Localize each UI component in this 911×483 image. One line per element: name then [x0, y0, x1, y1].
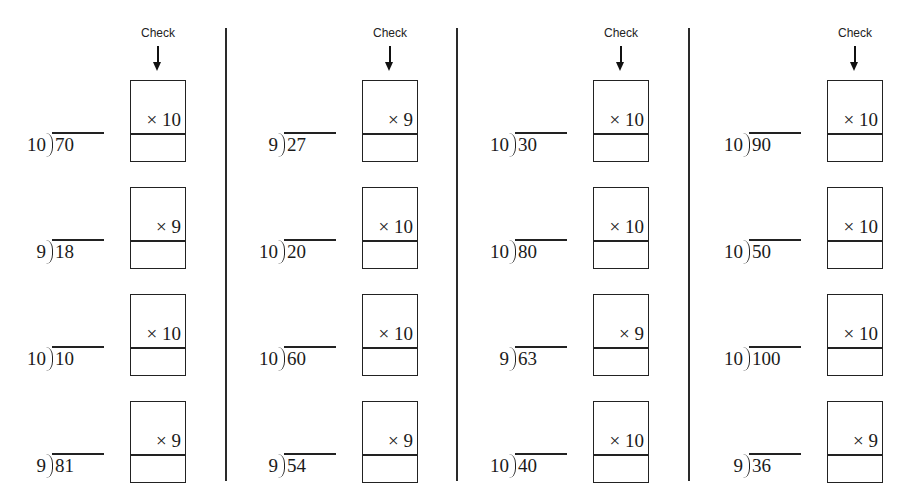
- division-bracket: [46, 454, 53, 478]
- answer-field[interactable]: [828, 349, 882, 375]
- answer-field[interactable]: [594, 242, 648, 268]
- check-box: × 9: [362, 401, 418, 483]
- down-arrow-icon: [616, 46, 626, 72]
- dividend: 63: [518, 348, 537, 370]
- division-bracket: [509, 240, 516, 264]
- multiplier-label: × 10: [610, 109, 644, 131]
- multiplier-label: × 9: [156, 430, 181, 452]
- multiplier-label: × 10: [147, 323, 181, 345]
- down-arrow-icon: [153, 46, 163, 72]
- dividend: 80: [518, 241, 537, 263]
- dividend: 70: [55, 134, 74, 156]
- divisor: 9: [238, 134, 278, 156]
- answer-field[interactable]: [363, 242, 417, 268]
- answer-field[interactable]: [363, 349, 417, 375]
- divisor: 10: [238, 348, 278, 370]
- multiplier-label: × 10: [379, 323, 413, 345]
- check-box: × 10: [827, 187, 883, 269]
- dividend: 60: [287, 348, 306, 370]
- multiplier-label: × 9: [388, 430, 413, 452]
- divisor: 9: [469, 348, 509, 370]
- long-division-problem: 10100: [697, 346, 807, 376]
- long-division-problem: 1080: [463, 239, 573, 269]
- divisor: 10: [469, 134, 509, 156]
- column-divider-line: [456, 28, 458, 481]
- divisor: 10: [6, 348, 46, 370]
- check-box: × 10: [130, 80, 186, 162]
- dividend: 81: [55, 455, 74, 477]
- division-bracket: [46, 133, 53, 157]
- answer-field[interactable]: [363, 456, 417, 482]
- long-division-problem: 954: [232, 453, 342, 483]
- division-bracket: [278, 240, 285, 264]
- dividend: 27: [287, 134, 306, 156]
- division-bracket: [46, 347, 53, 371]
- answer-field[interactable]: [131, 349, 185, 375]
- divisor: 10: [469, 455, 509, 477]
- answer-field[interactable]: [131, 135, 185, 161]
- answer-field[interactable]: [131, 456, 185, 482]
- check-label: Check: [825, 26, 885, 40]
- division-bracket: [509, 347, 516, 371]
- division-bracket: [278, 347, 285, 371]
- check-box: × 9: [130, 401, 186, 483]
- long-division-problem: 918: [0, 239, 110, 269]
- down-arrow-icon: [850, 46, 860, 72]
- answer-field[interactable]: [828, 456, 882, 482]
- long-division-problem: 981: [0, 453, 110, 483]
- divisor: 9: [6, 455, 46, 477]
- long-division-problem: 1030: [463, 132, 573, 162]
- dividend: 40: [518, 455, 537, 477]
- answer-field[interactable]: [363, 135, 417, 161]
- divisor: 10: [6, 134, 46, 156]
- answer-field[interactable]: [594, 456, 648, 482]
- check-box: × 10: [593, 80, 649, 162]
- multiplier-label: × 10: [844, 216, 878, 238]
- divisor: 9: [6, 241, 46, 263]
- check-box: × 9: [827, 401, 883, 483]
- answer-field[interactable]: [594, 349, 648, 375]
- multiplier-label: × 10: [610, 216, 644, 238]
- multiplier-label: × 10: [610, 430, 644, 452]
- long-division-problem: 1010: [0, 346, 110, 376]
- long-division-problem: 1070: [0, 132, 110, 162]
- division-bracket: [278, 454, 285, 478]
- dividend: 100: [752, 348, 781, 370]
- check-label: Check: [591, 26, 651, 40]
- divisor: 10: [469, 241, 509, 263]
- long-division-problem: 963: [463, 346, 573, 376]
- multiplier-label: × 10: [844, 109, 878, 131]
- multiplier-label: × 9: [156, 216, 181, 238]
- multiplier-label: × 9: [388, 109, 413, 131]
- answer-field[interactable]: [131, 242, 185, 268]
- column-divider-line: [225, 28, 227, 481]
- check-box: × 9: [593, 294, 649, 376]
- multiplier-label: × 10: [379, 216, 413, 238]
- answer-field[interactable]: [828, 242, 882, 268]
- answer-field[interactable]: [828, 135, 882, 161]
- division-bracket: [278, 133, 285, 157]
- divisor: 9: [703, 455, 743, 477]
- division-bracket: [46, 240, 53, 264]
- check-box: × 9: [130, 187, 186, 269]
- dividend: 10: [55, 348, 74, 370]
- division-bracket: [509, 133, 516, 157]
- down-arrow-icon: [385, 46, 395, 72]
- check-box: × 10: [593, 401, 649, 483]
- multiplier-label: × 9: [619, 323, 644, 345]
- divisor: 10: [703, 134, 743, 156]
- long-division-problem: 1040: [463, 453, 573, 483]
- dividend: 90: [752, 134, 771, 156]
- check-box: × 9: [362, 80, 418, 162]
- divisor: 10: [703, 348, 743, 370]
- division-bracket: [743, 133, 750, 157]
- answer-field[interactable]: [594, 135, 648, 161]
- check-box: × 10: [827, 80, 883, 162]
- division-bracket: [743, 454, 750, 478]
- column-divider-line: [688, 28, 690, 481]
- divisor: 10: [703, 241, 743, 263]
- division-bracket: [509, 454, 516, 478]
- dividend: 30: [518, 134, 537, 156]
- dividend: 50: [752, 241, 771, 263]
- division-bracket: [743, 347, 750, 371]
